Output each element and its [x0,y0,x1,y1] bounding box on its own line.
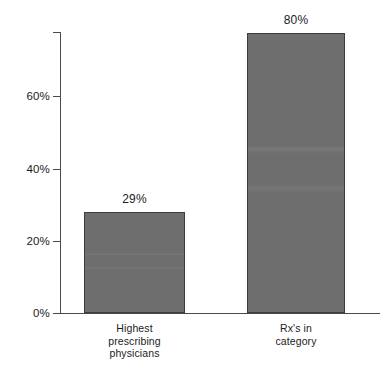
x-axis-line [60,313,380,314]
bar-value-label-0: 29% [84,193,185,205]
category-label-1: Rx's in category [236,322,356,347]
bar-highest-prescribing-physicians[interactable] [84,212,185,314]
y-tick-20 [53,241,61,242]
y-tick-label-20: 20% [26,236,50,248]
bar-chart: 0% 20% 40% 60% 29% 80% Highest prescribi… [0,0,384,372]
y-tick-label-40: 40% [26,164,50,176]
bar-value-label-1: 80% [247,14,345,26]
category-label-0: Highest prescribing physicians [74,322,195,360]
y-tick-label-0: 0% [33,308,50,320]
plot-area: 0% 20% 40% 60% 29% 80% Highest prescribi… [0,0,384,372]
y-axis-line [60,32,61,314]
y-tick-60 [53,96,61,97]
y-tick-0 [53,313,61,314]
y-tick-label-60: 60% [26,91,50,103]
y-tick-40 [53,169,61,170]
bar-rxs-in-category[interactable] [247,33,345,313]
y-axis-top-cap [53,32,61,33]
